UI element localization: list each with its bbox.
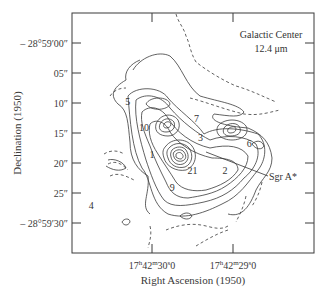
- x-tick-label: 17h42m30s0: [129, 259, 176, 271]
- y-tick-label: 15″: [54, 128, 68, 139]
- source-label-7: 7: [194, 113, 199, 124]
- sgr-a-pointer-line: [206, 152, 268, 176]
- contour-line-dashed: [110, 174, 134, 180]
- contour-line-dashed: [196, 230, 228, 246]
- y-tick-label: 20″: [54, 158, 68, 169]
- x-axis-title: Right Ascension (1950): [141, 274, 246, 287]
- contour-line: [228, 127, 236, 133]
- source-label-10: 10: [139, 122, 149, 133]
- contour-line: [173, 150, 185, 162]
- y-tick-label: 10″: [54, 98, 68, 109]
- chart-title: Galactic Center: [240, 29, 303, 40]
- contour-line: [113, 60, 150, 214]
- sgr-a-label: Sgr A*: [269, 171, 297, 182]
- source-label-1: 1: [150, 149, 155, 160]
- y-tick-label: – 28°59′30″: [19, 218, 68, 229]
- y-axis-title: Declination (1950): [11, 91, 24, 175]
- x-tick-label: 17h42m29s0: [210, 259, 257, 271]
- contour-line-dashed: [148, 226, 151, 248]
- contour-figure: – 28°59′00″05″10″15″20″25″– 28°59′30″ 17…: [0, 0, 323, 292]
- contour-line-dashed: [104, 151, 124, 154]
- contour-line: [252, 141, 264, 149]
- contour-line: [122, 219, 130, 225]
- y-tick-label: 05″: [54, 68, 68, 79]
- contour-line: [176, 153, 183, 160]
- contour-line: [159, 119, 174, 132]
- x-axis: 17h42m30s017h42m29s0: [129, 13, 257, 271]
- contour-line-dashed: [110, 88, 126, 96]
- source-labels: 123456791021: [89, 96, 252, 210]
- y-axis: – 28°59′00″05″10″15″20″25″– 28°59′30″: [19, 38, 314, 229]
- chart-subtitle: 12.4 μm: [254, 43, 287, 54]
- contour-line-dashed: [166, 224, 228, 230]
- contour-line-dashed: [176, 14, 276, 102]
- source-label-3: 3: [198, 132, 203, 143]
- y-tick-label: – 28°59′00″: [19, 38, 68, 49]
- y-tick-label: 25″: [54, 188, 68, 199]
- contour-line-dashed: [236, 196, 246, 222]
- source-label-4: 4: [89, 200, 94, 211]
- source-label-9: 9: [170, 182, 175, 193]
- source-label-2: 2: [222, 165, 227, 176]
- contour-line-dashed: [252, 182, 262, 206]
- contour-line: [106, 159, 126, 170]
- source-label-5: 5: [125, 96, 130, 107]
- source-label-21: 21: [188, 165, 198, 176]
- source-label-6: 6: [247, 138, 252, 149]
